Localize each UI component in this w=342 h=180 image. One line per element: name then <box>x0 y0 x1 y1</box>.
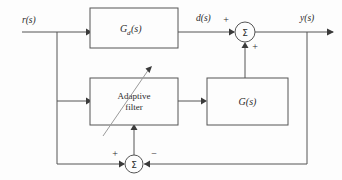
block-gd-suffix: (s) <box>131 23 142 35</box>
summing-junction-bottom-glyph: Σ <box>131 160 137 170</box>
summing-junction-top-glyph: Σ <box>242 28 248 38</box>
summing-junction-top-sign-left: + <box>223 14 229 25</box>
arrowhead-top-summer-left <box>229 29 235 36</box>
summing-junction-bottom-sign-right: − <box>151 148 157 159</box>
block-diagram-svg: G d (s) Adaptive filter G(s) Σ + + Σ + −… <box>0 0 342 180</box>
signal-label-disturbance: d(s) <box>196 13 211 24</box>
arrowhead-g-input <box>201 98 207 105</box>
signal-label-output: y(s) <box>299 13 314 24</box>
block-diagram-canvas: G d (s) Adaptive filter G(s) Σ + + Σ + −… <box>0 0 342 180</box>
arrowhead-output <box>327 29 334 36</box>
summing-junction-bottom-sign-left: + <box>112 148 118 159</box>
arrowhead-bottom-summer-right <box>144 161 150 168</box>
arrowhead-top-summer-bottom <box>242 42 249 48</box>
arrowhead-bottom-summer-left <box>119 161 125 168</box>
block-g-label: G(s) <box>239 96 257 108</box>
signal-label-input: r(s) <box>22 15 36 26</box>
block-adaptive-filter-label-line1: Adaptive <box>118 91 151 101</box>
summing-junction-top-sign-bottom: + <box>252 41 258 52</box>
block-adaptive-filter-label-line2: filter <box>125 102 143 112</box>
